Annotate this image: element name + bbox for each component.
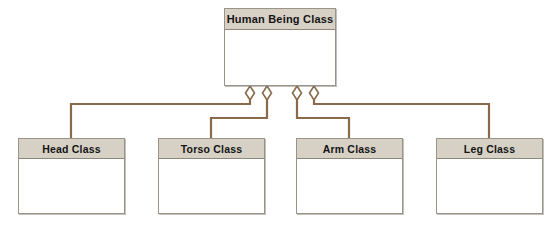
class-box-head[interactable]: Head Class: [18, 138, 125, 214]
class-box-torso[interactable]: Torso Class: [158, 138, 265, 214]
aggregation-diamond-torso: [263, 86, 272, 100]
class-body-torso: [159, 159, 264, 213]
class-box-arm[interactable]: Arm Class: [296, 138, 403, 214]
aggregation-diamond-arm: [293, 86, 302, 100]
connector-human-being-to-head: [71, 100, 250, 138]
aggregation-diamond-leg: [310, 86, 319, 100]
connector-human-being-to-arm: [297, 100, 349, 138]
aggregation-diamond-head: [246, 86, 255, 100]
class-box-human-being[interactable]: Human Being Class: [224, 8, 336, 86]
connector-human-being-to-torso: [211, 100, 267, 138]
uml-class-diagram: Human Being Class Head Class Torso Class…: [0, 0, 560, 230]
class-body-arm: [297, 159, 402, 213]
class-title-torso: Torso Class: [159, 139, 264, 159]
class-body-head: [19, 159, 124, 213]
class-body-leg: [437, 159, 542, 213]
class-box-leg[interactable]: Leg Class: [436, 138, 543, 214]
class-title-arm: Arm Class: [297, 139, 402, 159]
class-title-head: Head Class: [19, 139, 124, 159]
class-body-human-being: [225, 30, 335, 85]
class-title-leg: Leg Class: [437, 139, 542, 159]
connector-human-being-to-leg: [314, 100, 489, 138]
class-title-human-being: Human Being Class: [225, 9, 335, 30]
